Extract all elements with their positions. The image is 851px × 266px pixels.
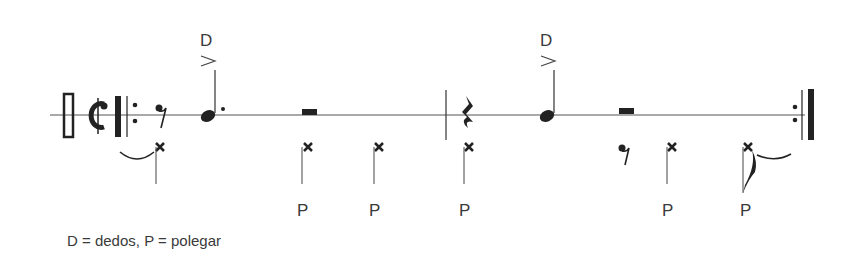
polegar-label: P bbox=[459, 201, 470, 221]
polegar-label: P bbox=[297, 201, 308, 221]
start-repeat-barline bbox=[115, 96, 137, 137]
eighth-rest-icon bbox=[619, 145, 630, 166]
dedos-label: D bbox=[200, 31, 212, 51]
music-score bbox=[0, 0, 851, 266]
quarter-note-icon bbox=[538, 70, 556, 124]
dedos-label: D bbox=[540, 31, 552, 51]
x-notehead-icon bbox=[156, 143, 164, 184]
accent-icon bbox=[201, 56, 215, 66]
half-rest-icon bbox=[302, 109, 317, 115]
accent-icon bbox=[541, 56, 555, 66]
dotted-quarter-note-icon bbox=[199, 70, 225, 124]
cut-time-icon bbox=[91, 98, 107, 134]
eighth-rest-icon bbox=[156, 105, 167, 129]
half-rest-icon bbox=[619, 108, 634, 114]
tie-icon bbox=[120, 152, 154, 159]
x-notehead-icon bbox=[374, 143, 383, 184]
tie-icon bbox=[757, 154, 791, 159]
quarter-rest-icon bbox=[462, 96, 473, 128]
legend-caption: D = dedos, P = polegar bbox=[67, 232, 221, 249]
polegar-label: P bbox=[369, 201, 380, 221]
polegar-label: P bbox=[740, 201, 751, 221]
x-notehead-icon bbox=[464, 143, 473, 184]
x-notehead-icon bbox=[302, 143, 312, 184]
x-notehead-eighth-icon bbox=[743, 143, 756, 193]
x-notehead-icon bbox=[667, 143, 676, 184]
polegar-label: P bbox=[662, 201, 673, 221]
